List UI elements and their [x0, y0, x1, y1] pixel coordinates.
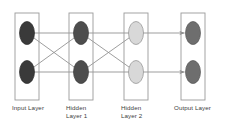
layer-label-line: Layer 1: [66, 112, 87, 120]
layer-label-output: Output Layer: [174, 104, 211, 112]
layer-label-hidden1: HiddenLayer 1: [66, 104, 87, 120]
layer-label-line: Output Layer: [174, 104, 211, 112]
layer-label-line: Layer 2: [121, 112, 142, 120]
layer-label-line: Input Layer: [12, 104, 44, 112]
neuron-node-input-2: [20, 61, 35, 84]
layer-label-line: Hidden: [121, 104, 142, 112]
layer-label-input: Input Layer: [12, 104, 44, 112]
layer-label-hidden2: HiddenLayer 2: [121, 104, 142, 120]
layer-label-line: Hidden: [66, 104, 87, 112]
layer-boxes-group: [15, 13, 205, 100]
neuron-node-hidden1-2: [74, 61, 89, 84]
neuron-node-output-2: [186, 61, 201, 84]
neural-network-diagram: Input LayerHiddenLayer 1HiddenLayer 2Out…: [0, 0, 227, 132]
neuron-node-output-1: [186, 22, 201, 45]
connection-edges-group: [32, 33, 184, 72]
neuron-node-input-1: [20, 22, 35, 45]
neuron-node-hidden2-2: [129, 61, 144, 84]
neuron-node-hidden1-1: [74, 22, 89, 45]
neuron-nodes-group: [20, 22, 201, 84]
neuron-node-hidden2-1: [129, 22, 144, 45]
